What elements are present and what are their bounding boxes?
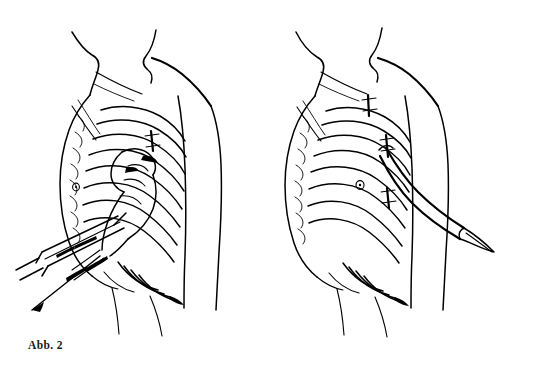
costal-margin-tip: [169, 296, 184, 305]
neck-left-outline: [72, 32, 99, 95]
costal-cartilage-scallops: [295, 117, 309, 244]
costal-margin-tip: [394, 297, 409, 306]
shoulder-outline: [378, 58, 438, 106]
illustration-page: Abb. 2: [0, 0, 536, 370]
scapula-shadow: [303, 101, 325, 135]
waist-left-outline: [112, 288, 119, 334]
hand-holding-syringe: [102, 149, 158, 256]
needle-direction-line: [32, 256, 100, 310]
clavicle-line: [96, 72, 142, 94]
scapula-shadow: [78, 100, 100, 134]
syringe-plunger-rod-2: [20, 268, 43, 280]
thoracentesis-illustration: [0, 0, 268, 370]
needle-arrowhead: [32, 302, 44, 312]
intercostal-marker: [151, 131, 153, 151]
hip-outline: [150, 296, 162, 336]
syringe-plunger-rod: [16, 258, 39, 270]
waist-left-outline: [337, 289, 344, 335]
costal-cartilage-scallops: [70, 116, 84, 243]
neck-left-outline: [296, 32, 324, 96]
arm-inner-outline: [178, 96, 186, 308]
figure-panel-right: Abb. 3: [268, 0, 536, 370]
arm-outer-outline: [211, 106, 221, 310]
syringe-barrel-mid: [45, 222, 120, 259]
syringe-assembly: [16, 213, 126, 312]
arm-outer-outline: [438, 106, 448, 310]
chest-drainage-illustration: [268, 0, 536, 370]
hip-outline: [375, 297, 387, 337]
neck-right-outline: [144, 30, 156, 83]
clavicle-shadow: [94, 84, 134, 101]
nipple-center: [75, 186, 77, 188]
shoulder-outline: [152, 58, 211, 106]
costal-margin: [118, 262, 174, 300]
clavicle-shadow: [319, 84, 359, 101]
intercostal-marker-upper: [368, 95, 369, 116]
neck-right-outline: [370, 28, 382, 82]
drainage-tube: [379, 146, 494, 252]
clavicle-line: [321, 72, 367, 94]
nipple-center: [359, 184, 361, 186]
costal-margin: [343, 263, 399, 301]
figure-panel-left: Abb. 2: [0, 0, 268, 370]
rib-cage: [83, 107, 186, 262]
figure-caption-left: Abb. 2: [28, 339, 63, 351]
